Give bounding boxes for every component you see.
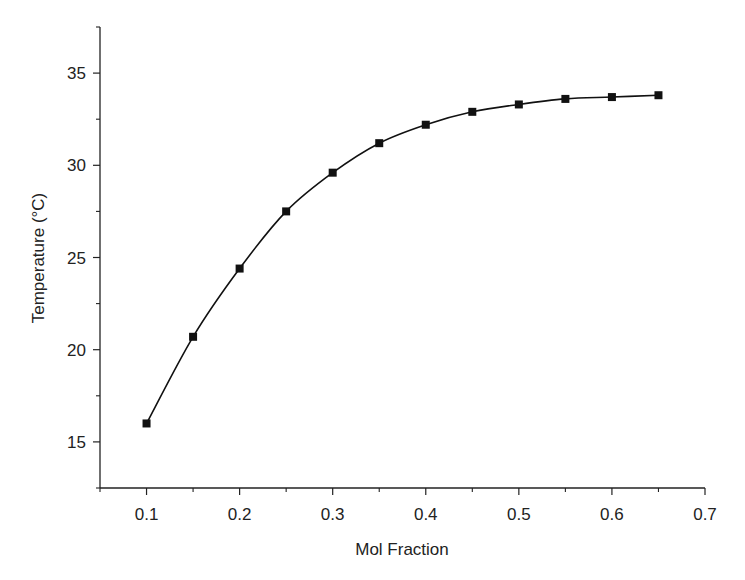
x-tick-label: 0.2 [228,505,252,524]
y-tick-label: 20 [67,341,86,360]
data-curve [147,95,659,423]
square-marker [561,95,569,103]
square-marker [282,207,290,215]
x-tick-label: 0.4 [414,505,438,524]
x-tick-label: 0.7 [693,505,717,524]
x-tick-label: 0.1 [135,505,159,524]
y-tick-label: 30 [67,156,86,175]
data-markers [143,91,663,427]
square-marker [236,265,244,273]
square-marker [189,333,197,341]
series-line [147,95,659,423]
square-marker [375,139,383,147]
y-tick-label: 15 [67,433,86,452]
y-axis-title: Temperature (°C) [29,193,48,324]
x-tick-label: 0.6 [600,505,624,524]
axes: 15202530350.10.20.30.40.50.60.7 [67,27,717,524]
square-marker [608,93,616,101]
square-marker [515,100,523,108]
y-tick-label: 35 [67,64,86,83]
square-marker [143,419,151,427]
square-marker [422,121,430,129]
square-marker [329,169,337,177]
x-axis-title: Mol Fraction [355,540,449,559]
square-marker [654,91,662,99]
square-marker [468,108,476,116]
y-tick-label: 25 [67,249,86,268]
x-tick-label: 0.3 [321,505,345,524]
x-tick-label: 0.5 [507,505,531,524]
line-chart: 15202530350.10.20.30.40.50.60.7 Mol Frac… [0,0,745,580]
